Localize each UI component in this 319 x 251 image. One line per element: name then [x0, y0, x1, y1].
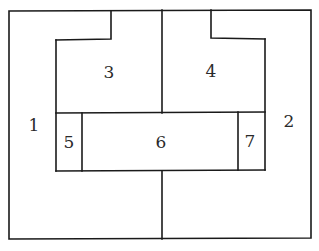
- region-label-3: 3: [104, 62, 115, 82]
- region-label-1: 1: [29, 115, 40, 135]
- region-label-5: 5: [64, 132, 75, 152]
- inner-bottom-edge: [56, 170, 265, 171]
- region-label-6: 6: [156, 132, 167, 152]
- region-label-2: 2: [284, 111, 295, 131]
- region-3-notch: [56, 11, 111, 40]
- diagram-lines: [9, 10, 311, 239]
- region-diagram: 1 2 3 4 5 6 7: [0, 0, 319, 251]
- region-label-7: 7: [245, 131, 256, 151]
- region-label-4: 4: [206, 61, 217, 81]
- divider-upper-lower: [56, 112, 265, 113]
- region-4-notch: [211, 10, 265, 39]
